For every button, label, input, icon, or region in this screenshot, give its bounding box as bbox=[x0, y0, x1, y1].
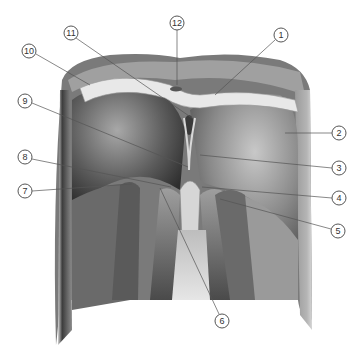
callout-9: 9 bbox=[18, 94, 33, 109]
callout-12: 12 bbox=[170, 16, 185, 31]
callout-6: 6 bbox=[215, 314, 230, 329]
callout-5: 5 bbox=[331, 224, 346, 239]
diaphragm-illustration bbox=[0, 0, 363, 346]
callout-2: 2 bbox=[332, 126, 347, 141]
callout-4: 4 bbox=[332, 191, 347, 206]
callout-3: 3 bbox=[332, 161, 347, 176]
anatomy-figure: 1 2 3 4 5 6 7 8 9 10 11 12 bbox=[0, 0, 363, 346]
callout-10: 10 bbox=[22, 44, 37, 59]
callout-7: 7 bbox=[18, 184, 33, 199]
callout-1: 1 bbox=[274, 28, 289, 43]
callout-8: 8 bbox=[18, 150, 33, 165]
callout-11: 11 bbox=[64, 26, 79, 41]
